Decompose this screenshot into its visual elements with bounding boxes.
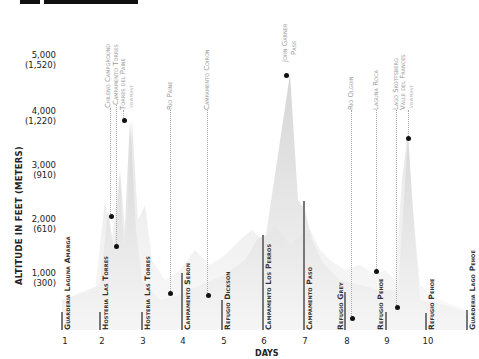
poi-marker: [350, 316, 355, 321]
poi-label-laguna-roca: Laguna Roca: [372, 70, 380, 110]
stop-label: Hosteria Las Torres: [101, 256, 110, 330]
poi-label-rio-paine: Rio Paine: [166, 81, 174, 110]
poi-leader-line: [170, 110, 171, 293]
poi-marker: [168, 291, 173, 296]
x-tick-1: 1: [55, 336, 75, 346]
y-tick-2000: 2,000(610): [32, 214, 56, 234]
y-tick-3000: 3,000(910): [32, 160, 56, 180]
x-tick-3: 3: [133, 336, 153, 346]
y-tick-1000: 1,000(300): [32, 268, 56, 288]
stop-label: Campamento Seron: [183, 263, 192, 330]
poi-leader-line: [376, 110, 377, 271]
x-tick-4: 4: [173, 336, 193, 346]
stop-label: Refugio Grey: [336, 282, 345, 330]
poi-label-pass: Pass: [290, 41, 298, 55]
poi-leader-line: [408, 110, 409, 138]
x-tick-7: 7: [295, 336, 315, 346]
poi-label-john-garner: John Garner: [281, 24, 289, 62]
stop-label: Refugio Dickson: [223, 271, 232, 330]
x-tick-2: 2: [92, 336, 112, 346]
stop-label: Hosteria Las Torres: [143, 256, 152, 330]
poi-label-valle-del-frances: Valle del Frances: [399, 55, 407, 110]
poi-leader-line: [396, 110, 397, 307]
poi-sublabel-viewpoint: viewpoint: [127, 85, 135, 108]
poi-marker: [122, 118, 127, 123]
y-tick-4000: 4,000(1,220): [25, 106, 56, 126]
x-tick-8: 8: [337, 336, 357, 346]
x-tick-6: 6: [254, 336, 274, 346]
poi-marker: [114, 244, 119, 249]
stop-marker: [385, 312, 387, 330]
poi-leader-line: [207, 110, 208, 295]
stop-label: Refugio Pehoe: [376, 278, 385, 330]
y-tick-5000: 5,000(1,520): [25, 50, 56, 70]
stop-label: Guarderia Laguna Amarga: [63, 236, 72, 330]
poi-marker: [109, 214, 114, 219]
poi-leader-line: [116, 105, 117, 246]
poi-marker: [395, 305, 400, 310]
poi-leader-line: [110, 108, 111, 216]
poi-label-torres-del-paine: Torres del Paine: [119, 58, 127, 110]
poi-sublabel-viewpoint: viewpoint: [407, 85, 415, 108]
poi-marker: [284, 73, 289, 78]
x-tick-10: 10: [418, 336, 438, 346]
poi-marker: [206, 293, 211, 298]
x-tick-9: 9: [377, 336, 397, 346]
stop-label: Refugio Pehoe: [427, 278, 436, 330]
poi-marker: [406, 136, 411, 141]
poi-label-chileno: Chileno Campground: [104, 44, 112, 108]
stop-label: Guarderia Lago Pehoe: [468, 250, 477, 330]
poi-leader-line: [351, 110, 352, 318]
x-tick-5: 5: [214, 336, 234, 346]
poi-label-campamento-coiron: Campamento Coiron: [203, 49, 211, 110]
x-axis-title: DAYS: [255, 349, 279, 358]
stop-label: Campamento Los Perros: [264, 244, 273, 330]
stop-label: Campamento Paso: [305, 267, 314, 330]
poi-label-rio-olguin: Rio Olguin: [347, 76, 355, 110]
y-axis-title: ALTITUDE IN FEET (METERS): [14, 146, 24, 285]
poi-marker: [374, 269, 379, 274]
